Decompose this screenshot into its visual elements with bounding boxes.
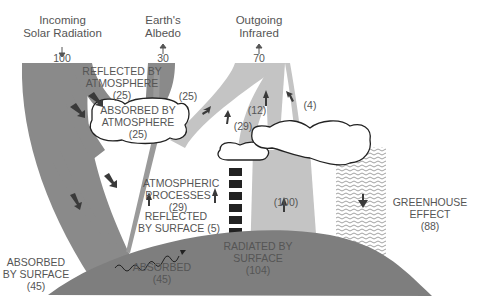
flow-4-label: (4) — [300, 99, 320, 111]
greenhouse-effect-label: GREENHOUSE EFFECT (88) — [392, 196, 468, 232]
incoming-value: 100 — [50, 52, 74, 64]
incoming-solar-label: Incoming Solar Radiation — [20, 14, 105, 40]
albedo-label: Earth's Albedo — [140, 14, 186, 40]
outgoing-value: 70 — [249, 52, 269, 64]
flow-29-label: (29) — [230, 120, 256, 132]
energy-budget-diagram: Incoming Solar Radiation 100 Earth's Alb… — [0, 0, 477, 305]
absorbed-label: ABSORBED (45) — [132, 261, 192, 285]
flow-100-label: (100) — [271, 196, 301, 208]
outgoing-ir-label: Outgoing Infrared — [232, 14, 286, 40]
arrow-diag-1 — [104, 173, 117, 188]
reflected-by-surface-label: REFLECTED BY SURFACE (5) — [138, 210, 214, 234]
reflected-by-atmosphere-label: REFLECTED BY ATMOSPHERE (25) — [82, 65, 162, 101]
albedo-value: 30 — [153, 52, 173, 64]
absorbed-by-surface-label: ABSORBED BY SURFACE (45) — [2, 256, 70, 292]
atmospheric-processes-column — [229, 168, 242, 236]
flow-25-label: (25) — [175, 90, 201, 102]
absorbed-by-atmosphere-label: ABSORBED BY ATMOSPHERE (25) — [98, 104, 178, 140]
flow-12-label: (12) — [244, 104, 270, 116]
radiated-by-surface-label: RADIATED BY SURFACE (104) — [223, 240, 293, 276]
atmospheric-processes-label: ATMOSPHERIC PROCESSES (29) — [143, 177, 213, 213]
